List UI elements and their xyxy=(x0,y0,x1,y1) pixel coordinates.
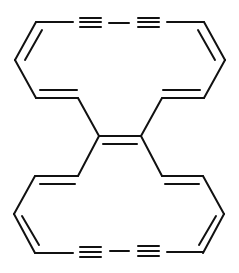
central-double-bond xyxy=(99,136,141,144)
molecule-structure xyxy=(0,0,239,273)
upper-ring xyxy=(15,18,225,136)
lower-ring xyxy=(14,136,224,257)
